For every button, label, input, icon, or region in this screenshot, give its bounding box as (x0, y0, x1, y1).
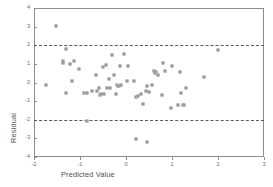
data-point (109, 87, 112, 90)
data-point (183, 103, 186, 106)
x-tick-mark (264, 157, 265, 160)
data-point (185, 87, 188, 90)
y-tick-label: 2 (13, 42, 30, 48)
data-point (161, 61, 164, 64)
x-tick-label: 1 (170, 162, 173, 168)
x-tick-mark (218, 157, 219, 160)
data-point (85, 92, 88, 95)
data-point (163, 69, 166, 72)
y-tick-mark (34, 101, 37, 102)
x-tick-mark (80, 157, 81, 160)
x-tick-label: -1 (78, 162, 83, 168)
y-tick-label: 1 (13, 61, 30, 67)
data-point (113, 73, 116, 76)
data-point (61, 61, 64, 64)
data-point (111, 53, 114, 56)
data-point (107, 77, 110, 80)
y-tick-mark (34, 64, 37, 65)
data-point (65, 91, 68, 94)
x-axis-title: Predicted Value (61, 170, 115, 179)
y-tick-label: -1 (13, 98, 30, 104)
reference-line-upper-limit (34, 45, 264, 46)
reference-line-lower-limit (34, 120, 264, 121)
y-tick-mark (34, 83, 37, 84)
x-tick-label: 2 (216, 162, 219, 168)
data-point (133, 80, 136, 83)
x-tick-label: 0 (124, 162, 127, 168)
data-point (127, 64, 130, 67)
data-point (119, 64, 122, 67)
y-axis-title: Residual (9, 113, 18, 143)
x-tick-mark (126, 157, 127, 160)
data-point (103, 93, 106, 96)
y-tick-mark (34, 8, 37, 9)
data-point (104, 64, 107, 67)
data-point (70, 80, 73, 83)
data-point (99, 93, 102, 96)
data-point (142, 102, 145, 105)
x-tick-label: -2 (32, 162, 37, 168)
data-point (176, 104, 179, 107)
data-point (120, 84, 123, 87)
y-tick-label: 4 (13, 5, 30, 11)
data-point (125, 79, 128, 82)
plot-area (34, 8, 264, 157)
data-point (146, 84, 149, 87)
data-point (44, 84, 47, 87)
y-tick-mark (34, 27, 37, 28)
data-point (91, 89, 94, 92)
data-point (77, 68, 80, 71)
data-point (217, 49, 220, 52)
data-point (64, 47, 67, 50)
data-point (69, 62, 72, 65)
y-tick-label: 0 (13, 80, 30, 86)
data-point (179, 71, 182, 74)
data-point (150, 84, 153, 87)
data-point (157, 73, 160, 76)
residual-scatter-chart: 43210-1-2-3-4 -2-10123 Predicted Value R… (0, 0, 273, 187)
data-point (203, 75, 206, 78)
data-point (98, 87, 101, 90)
x-tick-mark (34, 157, 35, 160)
data-point (135, 138, 138, 141)
data-point (55, 24, 58, 27)
y-tick-mark (34, 138, 37, 139)
data-point (122, 52, 125, 55)
x-tick-label: 3 (262, 162, 265, 168)
data-point (72, 59, 75, 62)
data-point (139, 93, 142, 96)
data-point (148, 90, 151, 93)
y-tick-label: -4 (13, 154, 30, 160)
data-point (145, 140, 148, 143)
data-point (160, 93, 163, 96)
data-point (170, 106, 173, 109)
data-point (85, 119, 88, 122)
data-point (94, 74, 97, 77)
data-point (171, 64, 174, 67)
data-point (180, 92, 183, 95)
y-tick-label: 3 (13, 24, 30, 30)
data-point (114, 93, 117, 96)
x-tick-mark (172, 157, 173, 160)
